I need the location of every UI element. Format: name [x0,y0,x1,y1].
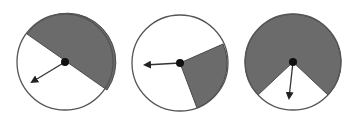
hub-icon [289,58,297,66]
spinner-3 [245,14,341,110]
hub-icon [176,59,184,67]
hub-icon [61,58,69,66]
spinners-figure [0,0,358,117]
spinner-2 [132,15,228,111]
spinner-1 [17,13,116,110]
